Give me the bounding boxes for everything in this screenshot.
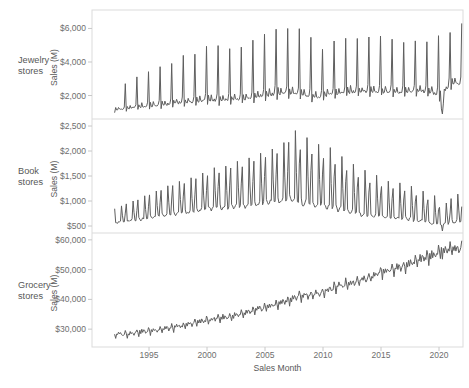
- series-line-grocery-stores: [115, 241, 462, 338]
- row-label-book-stores: stores: [18, 177, 43, 187]
- y-tick-label: $2,500: [60, 121, 86, 131]
- row-label-jewelry-stores: Jewelry: [18, 55, 50, 65]
- series-line-book-stores: [115, 131, 462, 231]
- x-tick-label: 2020: [430, 350, 449, 360]
- y-tick-label: $40,000: [55, 294, 86, 304]
- y-tick-label: $1,500: [60, 171, 86, 181]
- row-label-book-stores: Book: [18, 166, 39, 176]
- y-tick-label: $1,000: [60, 196, 86, 206]
- y-axis-title: Sales (M): [49, 49, 59, 86]
- row-label-grocery-stores: stores: [18, 291, 43, 301]
- x-tick-label: 1995: [140, 350, 159, 360]
- x-tick-label: 2015: [372, 350, 391, 360]
- sales-by-store-type-figure: 199520002005201020152020Sales Month$2,00…: [0, 0, 469, 388]
- y-axis-title: Sales (M): [49, 160, 59, 197]
- x-axis-title: Sales Month: [254, 363, 302, 373]
- y-tick-label: $2,000: [60, 91, 86, 101]
- y-tick-label: $6,000: [60, 23, 86, 33]
- y-tick-label: $2,000: [60, 146, 86, 156]
- x-tick-label: 2000: [198, 350, 217, 360]
- x-tick-label: 2010: [314, 350, 333, 360]
- x-tick-label: 2005: [256, 350, 275, 360]
- y-tick-label: $60,000: [55, 235, 86, 245]
- y-tick-label: $30,000: [55, 324, 86, 334]
- y-tick-label: $4,000: [60, 57, 86, 67]
- y-tick-label: $500: [67, 221, 86, 231]
- small-multiples-line-chart: 199520002005201020152020Sales Month$2,00…: [0, 0, 469, 388]
- y-tick-label: $50,000: [55, 265, 86, 275]
- row-label-grocery-stores: Grocery: [18, 280, 51, 290]
- row-label-jewelry-stores: stores: [18, 66, 43, 76]
- series-line-jewelry-stores: [115, 24, 462, 114]
